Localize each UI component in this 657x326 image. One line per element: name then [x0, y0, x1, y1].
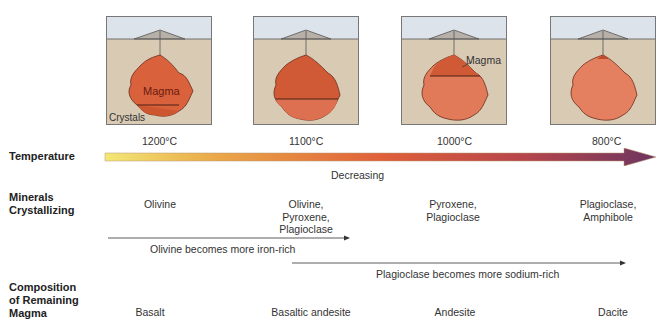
magma-chamber-panel-2: [253, 16, 359, 125]
olivine-trend-arrow: [108, 234, 350, 242]
composition-andesite: Andesite: [415, 306, 495, 319]
composition-basalt: Basalt: [110, 306, 190, 319]
minerals-800: Plagioclase, Amphibole: [568, 198, 648, 223]
composition-dacite: Dacite: [573, 306, 653, 319]
temperature-value: 1000°C: [437, 135, 472, 147]
composition-basaltic-andesite: Basaltic andesite: [256, 306, 366, 319]
row-label-temperature: Temperature: [9, 150, 75, 163]
magma-chamber-panel-1: Magma Crystals: [106, 16, 212, 125]
temperature-value: 800°C: [592, 135, 621, 147]
magma-chamber-illustration: [402, 17, 507, 125]
crystals-label: Crystals: [109, 112, 145, 123]
magma-chamber-illustration: [551, 17, 656, 125]
magma-chamber-panel-3: Magma: [401, 16, 507, 125]
minerals-1000: Pyroxene, Plagioclase: [413, 198, 493, 223]
temperature-gradient-arrow: [104, 148, 657, 166]
olivine-trend-label: Olivine becomes more iron-rich: [150, 243, 295, 255]
magma-label: Magma: [143, 85, 180, 97]
plagioclase-trend-arrow: [292, 259, 626, 267]
minerals-1200: Olivine: [120, 198, 200, 211]
decreasing-label: Decreasing: [331, 169, 384, 181]
minerals-1100: Olivine, Pyroxene, Plagioclase: [266, 198, 346, 236]
temperature-value: 1100°C: [289, 135, 323, 147]
temperature-value: 1200°C: [142, 135, 177, 147]
magma-label: Magma: [466, 54, 501, 66]
magma-chamber-illustration: [107, 17, 212, 125]
row-label-composition: Composition of Remaining Magma: [9, 281, 79, 320]
row-label-minerals: Minerals Crystallizing: [9, 191, 74, 217]
magma-chamber-panel-4: [550, 16, 656, 125]
plagioclase-trend-label: Plagioclase becomes more sodium-rich: [376, 268, 559, 280]
magma-chamber-illustration: [254, 17, 359, 125]
